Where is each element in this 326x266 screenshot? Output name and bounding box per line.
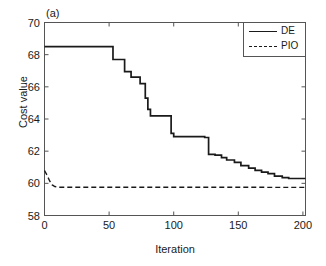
y-tick-label: 58 bbox=[16, 211, 40, 221]
legend-entry-pio: PIO bbox=[244, 39, 305, 54]
x-tick-label: 200 bbox=[283, 220, 323, 230]
y-tick-label: 62 bbox=[16, 146, 40, 156]
legend-label-pio: PIO bbox=[281, 40, 298, 52]
plot-area: 70686664626058 050100150200 Cost value I… bbox=[0, 0, 326, 266]
series-line-pio bbox=[45, 170, 306, 187]
x-axis-tick-labels: 050100150200 bbox=[0, 220, 326, 234]
series-line-de bbox=[45, 47, 306, 179]
x-tick-label: 0 bbox=[25, 220, 65, 230]
legend-label-de: DE bbox=[281, 25, 295, 37]
figure-panel-a: (a) 70686664626058 050100150200 Cost val… bbox=[0, 0, 326, 266]
y-axis-title: Cost value bbox=[17, 62, 29, 142]
y-tick-label: 70 bbox=[16, 18, 40, 28]
x-axis-title: Iteration bbox=[44, 243, 306, 255]
x-tick-label: 50 bbox=[89, 220, 129, 230]
x-tick-label: 150 bbox=[218, 220, 258, 230]
legend: DE PIO bbox=[243, 22, 306, 57]
x-tick-label: 100 bbox=[154, 220, 194, 230]
legend-line-solid-icon bbox=[249, 31, 277, 32]
y-tick-label: 60 bbox=[16, 178, 40, 188]
legend-entry-de: DE bbox=[244, 24, 305, 39]
legend-line-dashed-icon bbox=[249, 46, 277, 47]
y-tick-label: 68 bbox=[16, 50, 40, 60]
